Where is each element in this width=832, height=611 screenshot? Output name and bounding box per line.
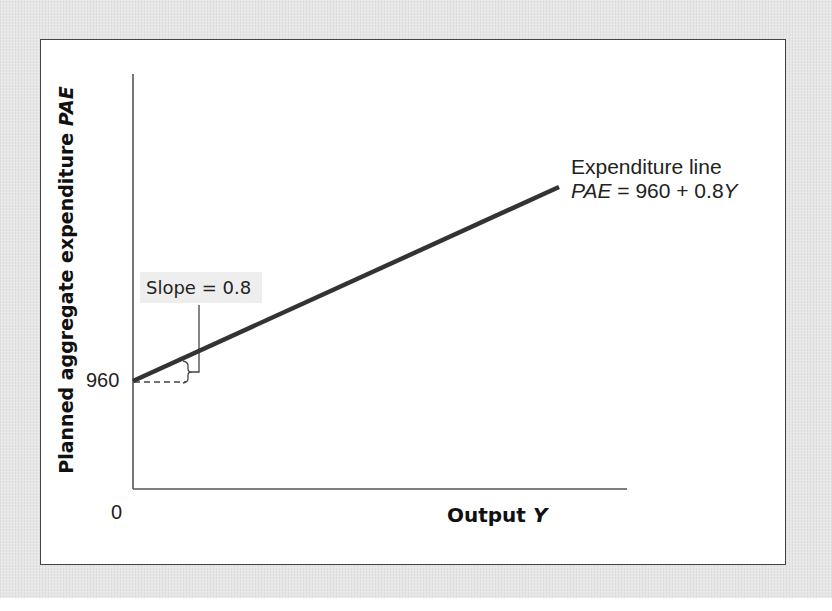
y-axis-label-var: PAE <box>55 86 77 126</box>
y-tick-960: 960 <box>86 369 119 392</box>
eq-var: Y <box>724 179 738 202</box>
y-axis-label-main: Planned aggregate expenditure <box>55 126 77 473</box>
slope-leader-line <box>192 305 199 372</box>
origin-tick-0: 0 <box>111 501 122 524</box>
x-axis-label-var: Y <box>533 503 547 527</box>
line-title: Expenditure line <box>571 155 738 179</box>
line-equation: PAE = 960 + 0.8Y <box>571 179 738 203</box>
slope-annotation: Slope = 0.8 <box>140 272 262 303</box>
slope-rise-brace <box>183 361 192 383</box>
x-axis-label-main: Output <box>447 503 533 527</box>
expenditure-line-label: Expenditure line PAE = 960 + 0.8Y <box>571 155 738 203</box>
y-axis-label: Planned aggregate expenditure PAE <box>55 86 77 473</box>
slope-label: Slope = 0.8 <box>146 277 251 298</box>
plot-area <box>0 0 832 611</box>
eq-lhs: PAE <box>571 179 611 202</box>
eq-rhs: = 960 + 0.8 <box>611 179 723 202</box>
x-axis-label: Output Y <box>447 503 547 527</box>
